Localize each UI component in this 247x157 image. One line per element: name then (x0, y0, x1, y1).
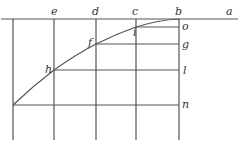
label-i: i (133, 26, 137, 39)
label-e: e (51, 5, 58, 18)
label-g: g (182, 38, 189, 51)
label-a: a (226, 5, 233, 18)
label-h: h (45, 63, 52, 76)
label-d: d (92, 5, 99, 18)
label-f: f (87, 36, 94, 49)
label-l: l (183, 64, 187, 77)
label-o: o (182, 20, 189, 33)
label-c: c (132, 5, 138, 18)
label-n: n (182, 98, 189, 111)
diagram-canvas: a b c d e f g h i l n o (0, 0, 247, 157)
label-b: b (175, 5, 182, 18)
